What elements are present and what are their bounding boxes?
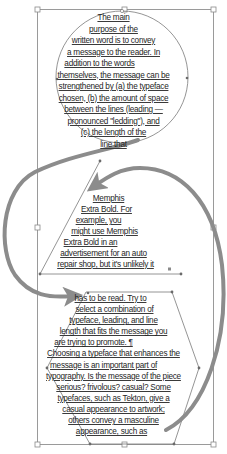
text-line: strengthened by (a) the typeface — [0, 81, 227, 93]
text-line: a message to the reader. In — [0, 47, 227, 59]
text-line: serious? frivolous? casual? Some — [0, 382, 227, 393]
text-line: Extra Bold in an — [0, 237, 227, 248]
text-line: The main — [0, 12, 227, 24]
text-line: has to be read. Try to — [0, 293, 227, 304]
text-line: appearance, such as — [0, 426, 227, 437]
artboard-canvas[interactable]: The main purpose of the written word is … — [0, 0, 227, 454]
text-line: Memphis — [0, 193, 227, 204]
text-line: pronounced "ledding"), and — [0, 116, 227, 128]
text-line: chosen, (b) the amount of space — [0, 93, 227, 105]
text-line: select a combination of — [0, 304, 227, 315]
text-line: repair shop, but it's unlikely it — [0, 259, 227, 270]
text-line: (c) the length of the — [0, 127, 227, 139]
triangle-text-block[interactable]: Memphis Extra Bold. For example, you mig… — [0, 193, 227, 270]
text-line: casual appearance to artwork; — [0, 404, 227, 415]
anchor-point[interactable] — [173, 443, 176, 446]
resize-handle-bottom-center[interactable] — [122, 442, 127, 447]
anchor-point[interactable] — [39, 273, 42, 276]
text-line: example, you — [0, 215, 227, 226]
text-line: Extra Bold. For — [0, 204, 227, 215]
text-line: Choosing a typeface that enhances the — [0, 348, 227, 359]
anchor-point[interactable] — [99, 160, 102, 163]
text-line: written word is to convey — [0, 35, 227, 47]
text-line: might use Memphis — [0, 226, 227, 237]
text-line: typefaces, such as Tekton, give a — [0, 393, 227, 404]
text-line: others convey a masculine — [0, 415, 227, 426]
text-line: advertisement for an auto — [0, 248, 227, 259]
circle-text-block[interactable]: The main purpose of the written word is … — [0, 12, 227, 150]
anchor-point[interactable] — [180, 273, 183, 276]
text-line: message is an important part of — [0, 360, 227, 371]
text-line: are trying to promote. ¶ — [0, 337, 227, 348]
text-line: line that — [0, 139, 227, 151]
text-line: purpose of the — [0, 24, 227, 36]
text-line: themselves, the message can be — [0, 70, 227, 82]
text-line: addition to the words — [0, 58, 227, 70]
text-line: between the lines (leading — — [0, 104, 227, 116]
resize-handle-bottom-right[interactable] — [211, 442, 216, 447]
anchor-point[interactable] — [89, 443, 92, 446]
resize-handle-bottom-left[interactable] — [35, 442, 40, 447]
hexagon-text-block[interactable]: has to be read. Try to select a combinat… — [0, 293, 227, 437]
text-line: typography. Is the message of the piece — [0, 371, 227, 382]
text-line: length that fits the message you — [0, 326, 227, 337]
text-line: typeface, leading, and line — [0, 315, 227, 326]
